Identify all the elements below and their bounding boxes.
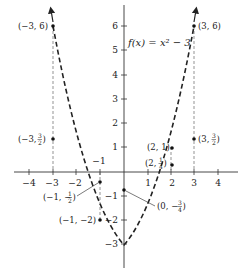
arrow-right-up: [194, 10, 196, 22]
svg-text:1: 1: [159, 156, 163, 163]
point-label-m3-6: (−3, 6): [18, 21, 48, 31]
x-tick-label: 1: [145, 178, 151, 188]
svg-text:2: 2: [38, 139, 42, 146]
svg-text:(2,: (2,: [145, 158, 156, 168]
y-tick-label: 4: [112, 70, 118, 80]
point-label-3-3half: (3, 3 2 ): [198, 132, 220, 146]
svg-text:): ): [73, 192, 76, 202]
y-tick-label: 2: [112, 118, 118, 128]
point-label-0-m3quarter: (0, − 3 4 ): [157, 199, 186, 213]
svg-text:): ): [217, 134, 220, 144]
y-tick-label: −3: [105, 239, 119, 249]
svg-text:(0, −: (0, −: [157, 201, 178, 211]
point-label-m1-m2: (−1, −2): [59, 215, 96, 225]
y-tick-label: −1: [105, 191, 118, 201]
point-label-m1-mhalf: (−1, − 1 2 ): [43, 190, 76, 204]
svg-text:1: 1: [68, 190, 72, 197]
svg-text:2: 2: [68, 197, 72, 204]
parabola-dashed: [53, 26, 194, 245]
point-label-2-quarter: (2, 1 4 ): [145, 156, 167, 170]
x-tick-label: −3: [45, 178, 59, 188]
y-tick-label: 5: [112, 45, 118, 55]
function-label: f(x) = x² − 3: [127, 37, 191, 48]
svg-text:2: 2: [212, 139, 216, 146]
svg-text:4: 4: [178, 206, 182, 213]
svg-text:(−3,: (−3,: [18, 134, 37, 144]
y-tick-label: 6: [112, 21, 118, 31]
svg-text:3: 3: [212, 132, 216, 139]
svg-text:4: 4: [159, 163, 163, 170]
x-tick-label: −2: [68, 178, 81, 188]
x-tick-label: −4: [22, 178, 36, 188]
leader-0-m3quarter: [126, 191, 155, 206]
x-tick-label: 2: [169, 178, 175, 188]
svg-text:): ): [164, 158, 167, 168]
svg-text:): ): [43, 134, 46, 144]
x-tick-label: 4: [215, 178, 221, 188]
x-tick-label-minus1-above: −1: [92, 156, 105, 166]
point-label-m3-3half: (−3, 3 2 ): [18, 132, 46, 146]
function-graph: −4 −3 −2 1 2 3 4 −1 6 5 4 3 2 1 −1 −2 −3…: [0, 0, 247, 273]
point-label-3-6: (3, 6): [198, 21, 221, 31]
y-tick-label: −2: [105, 215, 118, 225]
svg-text:(3,: (3,: [198, 134, 209, 144]
svg-text:): ): [183, 201, 186, 211]
svg-text:3: 3: [178, 199, 182, 206]
arrow-left-up: [51, 10, 53, 22]
x-tick-label: 3: [191, 178, 197, 188]
point-label-2-1: (2, 1): [147, 142, 170, 152]
y-tick-label: 3: [112, 94, 118, 104]
y-tick-label: 1: [112, 142, 118, 152]
svg-text:3: 3: [38, 132, 42, 139]
